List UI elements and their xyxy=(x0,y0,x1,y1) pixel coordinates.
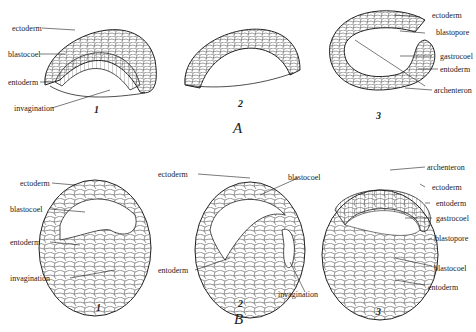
label-b3-ectoderm: ectoderm xyxy=(432,183,462,192)
panel-b1-embryo xyxy=(39,180,151,316)
panel-number-a3: 3 xyxy=(376,110,381,121)
label-b2-blastocoel: blastocoel xyxy=(288,173,320,182)
label-b3-blastocoel: blastocoel xyxy=(434,264,466,273)
panel-number-b2: 2 xyxy=(238,298,243,309)
label-a3-blastopore: blastopore xyxy=(436,28,469,37)
label-b3-gastrocoel: gastrocoel xyxy=(436,214,469,223)
label-b1-entoderm: entoderm xyxy=(10,238,40,247)
label-b3-archenteron: archenteron xyxy=(427,163,465,172)
label-a1-entoderm: entoderm xyxy=(8,78,38,87)
label-b2-invagination: invagination xyxy=(278,290,318,299)
label-b3-blastopore: blastopore xyxy=(435,234,468,243)
label-a3-entoderm: entoderm xyxy=(440,65,470,74)
panel-a3-embryo xyxy=(330,11,435,90)
panel-b3-embryo xyxy=(322,190,438,320)
label-a1-invagination: invagination xyxy=(14,104,54,113)
label-b3-entoderm-lower: entoderm xyxy=(428,283,458,292)
label-a3-gastrocoel: gastrocoel xyxy=(440,52,473,61)
label-b2-entoderm: entoderm xyxy=(158,266,188,275)
label-a3-ectoderm: ectoderm xyxy=(432,11,462,20)
label-b2-ectoderm: ectoderm xyxy=(158,170,188,179)
panel-number-b1: 1 xyxy=(96,302,101,313)
panel-a1-embryo xyxy=(45,30,157,97)
panel-a2-embryo xyxy=(185,29,300,88)
group-letter-b: B xyxy=(234,311,243,328)
label-b1-ectoderm: ectoderm xyxy=(20,179,50,188)
label-b3-entoderm: entoderm xyxy=(436,199,466,208)
panel-number-a2: 2 xyxy=(238,98,243,109)
panel-number-a1: 1 xyxy=(94,104,99,115)
label-a3-archenteron: archenteron xyxy=(434,86,472,95)
label-b1-invagination: invagination xyxy=(10,274,50,283)
gastrulation-diagram xyxy=(0,0,476,332)
group-letter-a: A xyxy=(233,120,242,137)
label-b1-blastocoel: blastocoel xyxy=(10,205,42,214)
panel-number-b3: 3 xyxy=(376,306,381,317)
label-a1-ectoderm: ectoderm xyxy=(12,24,42,33)
label-a1-blastocoel: blastocoel xyxy=(8,50,40,59)
